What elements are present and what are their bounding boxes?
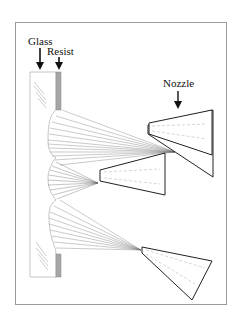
top-nozzle-body [149,110,212,155]
glass-arrow-icon [36,48,44,70]
resist-arrow-icon [55,57,63,70]
resist-strip-top [56,72,61,110]
bottom-nozzle-body [142,247,212,300]
bottom-spray-fan [49,200,141,250]
resist-strip-bottom [56,254,61,277]
middle-spray-fan [48,162,98,199]
resist-label: Resist [47,45,74,57]
nozzle-label: Nozzle [163,77,194,89]
etching-diagram: Glass Resist Nozzle [0,0,240,318]
glass-substrate [30,72,56,277]
nozzle-arrow-icon [174,91,182,109]
